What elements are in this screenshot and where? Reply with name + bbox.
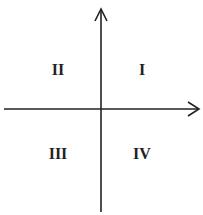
quadrant-label-iii: III (49, 145, 68, 162)
quadrant-label-iv: IV (133, 145, 151, 162)
y-axis (95, 9, 107, 212)
quadrant-diagram: I II III IV (0, 0, 203, 215)
quadrant-label-ii: II (52, 61, 64, 78)
quadrant-label-i: I (139, 61, 145, 78)
